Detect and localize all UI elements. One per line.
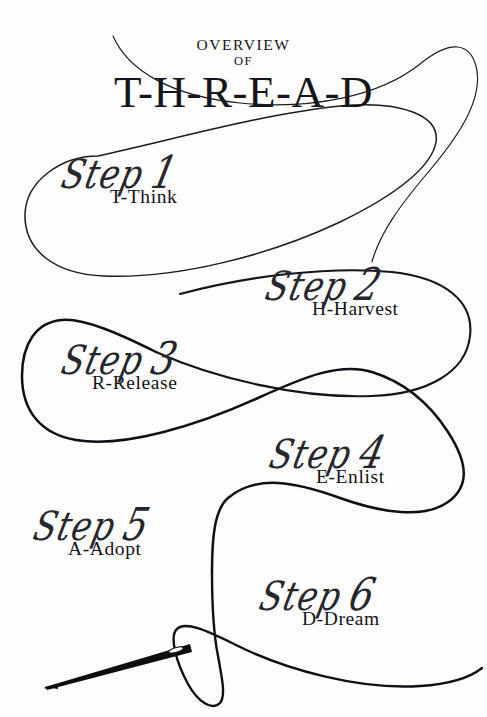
step-3-script-label: Step3 bbox=[58, 339, 187, 381]
step-item-4: Step4 E-Enlist bbox=[266, 440, 385, 487]
step-item-2: Step2 H-Harvest bbox=[262, 272, 399, 319]
thread-overview-infographic: OVERVIEW OF T-H-R-E-A-D Step1 T-Think St… bbox=[0, 0, 487, 717]
step-4-script-label: Step4 bbox=[266, 433, 394, 475]
thread-acronym-title: T-H-R-E-A-D bbox=[0, 70, 487, 115]
step-2-script-label: Step2 bbox=[262, 265, 408, 307]
step-item-1: Step1 T-Think bbox=[58, 160, 177, 207]
step-6-script-label: Step6 bbox=[256, 575, 389, 617]
step-item-3: Step3 R-Release bbox=[58, 346, 178, 393]
step-item-5: Step5 A-Adopt bbox=[30, 512, 143, 559]
overview-label: OVERVIEW bbox=[0, 36, 487, 54]
step-5-script-label: Step5 bbox=[30, 505, 153, 547]
step-item-6: Step6 D-Dream bbox=[256, 582, 380, 629]
step-1-script-label: Step1 bbox=[58, 153, 187, 195]
